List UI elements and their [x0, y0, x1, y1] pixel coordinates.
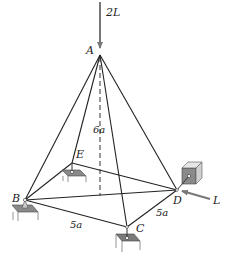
truss-members: [25, 55, 177, 227]
horizontal-load-arrow: [182, 191, 210, 199]
joint-label-d: D: [172, 194, 182, 207]
member-ab: [25, 55, 100, 200]
member-ed: [72, 163, 177, 190]
joint-label-a: A: [85, 44, 94, 57]
joint-label-b: B: [11, 192, 20, 205]
horizontal-load-label: L: [212, 194, 220, 207]
height-dimension-label: 6a: [93, 124, 105, 135]
side-cd-dimension-label: 5a: [156, 207, 168, 218]
member-ad: [100, 55, 177, 190]
member-ae: [72, 55, 100, 163]
member-be: [25, 163, 72, 200]
member-cd: [127, 190, 177, 227]
vertical-load-label: 2L: [105, 6, 120, 19]
support-d: [176, 162, 202, 191]
member-bd: [25, 190, 177, 200]
joint-label-c: C: [136, 222, 145, 235]
member-ac: [100, 55, 127, 227]
joint-label-e: E: [75, 148, 84, 161]
side-bc-dimension-label: 5a: [70, 219, 82, 230]
truss-diagram: 2L A 6a E B: [0, 0, 232, 269]
